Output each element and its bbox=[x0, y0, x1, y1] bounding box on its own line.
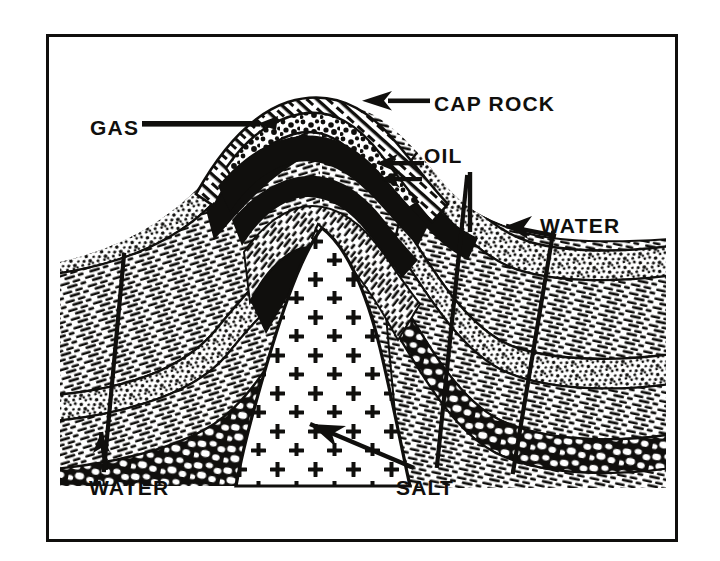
label-gas: GAS bbox=[90, 117, 139, 138]
label-water-left: WATER bbox=[89, 477, 169, 498]
leader-cap-rock bbox=[362, 91, 430, 111]
label-salt: SALT bbox=[396, 477, 454, 498]
label-water-right: WATER bbox=[540, 215, 620, 236]
label-cap-rock: CAP ROCK bbox=[434, 93, 555, 114]
figure-page: CAP ROCK GAS OIL WATER WATER SALT bbox=[0, 0, 720, 561]
label-oil: OIL bbox=[424, 145, 463, 166]
